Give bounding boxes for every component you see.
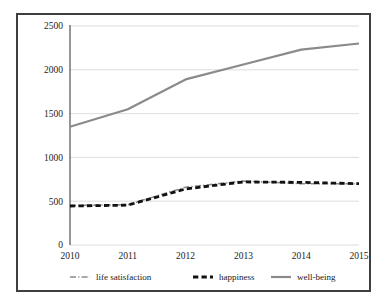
y-axis-tick-labels: 05001000150020002500 xyxy=(44,21,63,250)
x-tick-label-2012: 2012 xyxy=(176,251,195,261)
series-line-well-being xyxy=(70,44,359,127)
y-tick-label-0: 0 xyxy=(58,240,63,250)
y-tick-label-1500: 1500 xyxy=(44,109,63,119)
x-tick-label-2014: 2014 xyxy=(292,251,311,261)
legend-label-well-being: well-being xyxy=(297,272,336,282)
y-tick-label-2000: 2000 xyxy=(44,65,63,75)
data-series-group xyxy=(70,44,359,206)
legend-label-life-satisfaction: life satisfaction xyxy=(96,272,152,282)
legend-label-happiness: happiness xyxy=(219,272,255,282)
x-tick-label-2010: 2010 xyxy=(61,251,80,261)
x-tick-label-2013: 2013 xyxy=(234,251,253,261)
x-tick-label-2011: 2011 xyxy=(118,251,137,261)
series-line-happiness xyxy=(70,182,359,206)
y-tick-label-500: 500 xyxy=(49,197,64,207)
x-tick-label-2015: 2015 xyxy=(350,251,369,261)
chart-plot-area: 05001000150020002500 2010201120122013201… xyxy=(18,15,369,290)
chart-figure: 05001000150020002500 2010201120122013201… xyxy=(16,13,371,292)
chart-legend: life satisfactionhappinesswell-being xyxy=(70,272,336,282)
y-tick-label-1000: 1000 xyxy=(44,153,63,163)
line-chart-svg: 05001000150020002500 2010201120122013201… xyxy=(18,15,369,290)
x-axis-tick-labels: 201020112012201320142015 xyxy=(61,251,369,261)
gridlines-group xyxy=(70,26,359,245)
y-tick-label-2500: 2500 xyxy=(44,21,63,31)
